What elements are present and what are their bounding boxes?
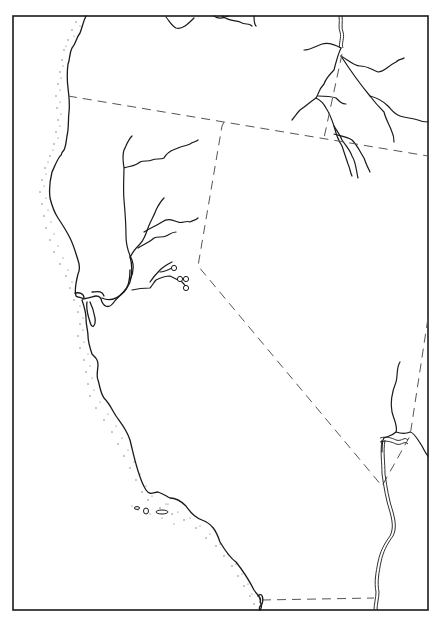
island-3 [156,510,168,514]
san-francisco-bay [75,270,130,300]
klamath-river-segment [166,17,194,28]
border-oregon-california [68,96,428,156]
pacific-coastline [50,16,262,610]
map-canvas [0,0,444,624]
colorado-river [374,362,428,610]
site-marker-2 [177,276,182,281]
border-california-nevada [198,122,428,486]
site-marker-1 [171,265,176,270]
site-marker-4 [183,285,188,290]
site-marker-3 [183,276,188,281]
state-borders [68,54,428,600]
map-frame [13,16,428,610]
border-us-mexico [262,598,374,600]
island-2 [144,508,149,514]
channel-islands [134,507,168,514]
outline-map [0,0,444,624]
river-top-edge [214,16,256,26]
sacramento-river-system [123,136,198,290]
northeast-river-system [292,16,428,178]
island-1 [134,507,139,510]
